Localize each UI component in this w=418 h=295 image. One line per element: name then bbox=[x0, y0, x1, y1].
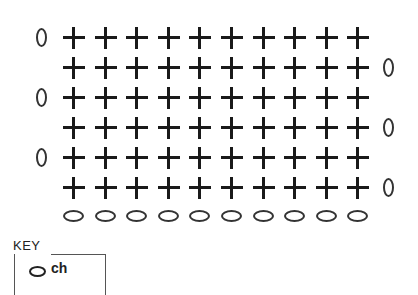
single-crochet-icon bbox=[126, 57, 148, 79]
turning-chain-icon bbox=[36, 148, 47, 167]
single-crochet-icon bbox=[347, 57, 369, 79]
single-crochet-icon bbox=[95, 177, 117, 199]
single-crochet-icon bbox=[284, 117, 306, 139]
single-crochet-icon bbox=[316, 147, 338, 169]
single-crochet-icon bbox=[189, 147, 211, 169]
turning-chain-icon bbox=[383, 58, 394, 77]
single-crochet-icon bbox=[253, 87, 275, 109]
foundation-chain-icon bbox=[189, 210, 210, 222]
single-crochet-icon bbox=[126, 87, 148, 109]
single-crochet-icon bbox=[284, 57, 306, 79]
single-crochet-icon bbox=[95, 87, 117, 109]
foundation-chain-icon bbox=[126, 210, 147, 222]
chain-oval-icon bbox=[29, 266, 46, 277]
single-crochet-icon bbox=[189, 27, 211, 49]
single-crochet-icon bbox=[95, 27, 117, 49]
single-crochet-icon bbox=[221, 27, 243, 49]
key-title: KEY bbox=[13, 238, 41, 253]
single-crochet-icon bbox=[158, 147, 180, 169]
single-crochet-icon bbox=[347, 87, 369, 109]
single-crochet-icon bbox=[189, 57, 211, 79]
single-crochet-icon bbox=[284, 177, 306, 199]
single-crochet-icon bbox=[284, 87, 306, 109]
single-crochet-icon bbox=[316, 117, 338, 139]
chart-row-6 bbox=[0, 27, 418, 57]
foundation-chain-icon bbox=[63, 210, 84, 222]
chart-row-3 bbox=[0, 117, 418, 147]
single-crochet-icon bbox=[63, 147, 85, 169]
chart-row-1 bbox=[0, 177, 418, 207]
turning-chain-icon bbox=[36, 28, 47, 47]
single-crochet-icon bbox=[126, 177, 148, 199]
single-crochet-icon bbox=[253, 177, 275, 199]
single-crochet-icon bbox=[126, 117, 148, 139]
key-box: ch bbox=[14, 254, 106, 295]
single-crochet-icon bbox=[63, 57, 85, 79]
foundation-chain-icon bbox=[347, 210, 368, 222]
single-crochet-icon bbox=[158, 57, 180, 79]
single-crochet-icon bbox=[95, 147, 117, 169]
foundation-chain-icon bbox=[316, 210, 337, 222]
foundation-chain-icon bbox=[253, 210, 274, 222]
foundation-chain-icon bbox=[221, 210, 242, 222]
single-crochet-icon bbox=[284, 27, 306, 49]
single-crochet-icon bbox=[347, 147, 369, 169]
single-crochet-icon bbox=[189, 177, 211, 199]
single-crochet-icon bbox=[221, 147, 243, 169]
foundation-chain-icon bbox=[158, 210, 179, 222]
single-crochet-icon bbox=[158, 177, 180, 199]
single-crochet-icon bbox=[189, 87, 211, 109]
single-crochet-icon bbox=[253, 117, 275, 139]
turning-chain-icon bbox=[383, 178, 394, 197]
single-crochet-icon bbox=[221, 87, 243, 109]
foundation-chain-icon bbox=[95, 210, 116, 222]
single-crochet-icon bbox=[95, 57, 117, 79]
single-crochet-icon bbox=[126, 27, 148, 49]
single-crochet-icon bbox=[253, 147, 275, 169]
single-crochet-icon bbox=[316, 177, 338, 199]
single-crochet-icon bbox=[158, 27, 180, 49]
single-crochet-icon bbox=[316, 57, 338, 79]
single-crochet-icon bbox=[347, 177, 369, 199]
single-crochet-icon bbox=[221, 177, 243, 199]
single-crochet-icon bbox=[63, 177, 85, 199]
single-crochet-icon bbox=[347, 117, 369, 139]
single-crochet-icon bbox=[158, 117, 180, 139]
chart-row-5 bbox=[0, 57, 418, 87]
single-crochet-icon bbox=[221, 117, 243, 139]
key-box-gap bbox=[15, 254, 51, 256]
single-crochet-icon bbox=[253, 27, 275, 49]
single-crochet-icon bbox=[284, 147, 306, 169]
single-crochet-icon bbox=[95, 117, 117, 139]
single-crochet-icon bbox=[221, 57, 243, 79]
turning-chain-icon bbox=[383, 118, 394, 137]
single-crochet-icon bbox=[316, 87, 338, 109]
chart-row-2 bbox=[0, 147, 418, 177]
single-crochet-icon bbox=[63, 117, 85, 139]
single-crochet-icon bbox=[158, 87, 180, 109]
single-crochet-icon bbox=[126, 147, 148, 169]
single-crochet-icon bbox=[316, 27, 338, 49]
key-item-label: ch bbox=[51, 260, 67, 276]
single-crochet-icon bbox=[63, 87, 85, 109]
single-crochet-icon bbox=[63, 27, 85, 49]
single-crochet-icon bbox=[253, 57, 275, 79]
single-crochet-icon bbox=[347, 27, 369, 49]
single-crochet-icon bbox=[189, 117, 211, 139]
turning-chain-icon bbox=[36, 88, 47, 107]
chart-row-4 bbox=[0, 87, 418, 117]
crochet-chart bbox=[0, 0, 418, 230]
foundation-chain-icon bbox=[284, 210, 305, 222]
